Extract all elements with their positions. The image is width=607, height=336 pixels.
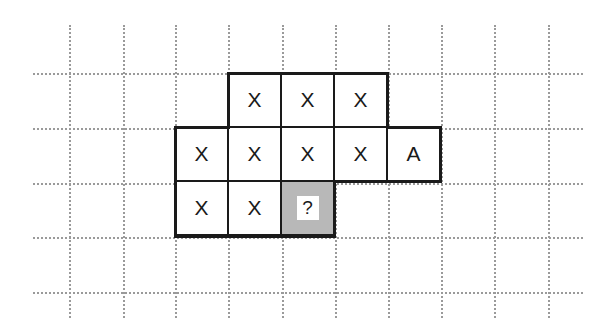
grid-line-vertical bbox=[123, 25, 125, 318]
grid-line-vertical bbox=[548, 25, 550, 318]
cell-r2c1: X bbox=[228, 181, 281, 235]
grid-line-vertical bbox=[494, 25, 496, 318]
cell-r1c2: X bbox=[281, 127, 334, 181]
outline-top-row1-left bbox=[175, 126, 230, 129]
cell-r1c1: X bbox=[228, 127, 281, 181]
grid-line-vertical bbox=[69, 25, 71, 318]
cell-label: X bbox=[300, 142, 314, 166]
cell-label: X bbox=[247, 88, 261, 112]
grid-line-horizontal bbox=[33, 292, 583, 294]
cell-label: X bbox=[247, 142, 261, 166]
cell-r1c3: X bbox=[334, 127, 387, 181]
outline-top-row1-right bbox=[386, 126, 441, 129]
cell-label: X bbox=[194, 196, 208, 220]
cell-label: A bbox=[406, 142, 420, 166]
cell-label: X bbox=[300, 88, 314, 112]
cell-r0c3: X bbox=[334, 73, 387, 127]
cell-r0c2: X bbox=[281, 73, 334, 127]
outline-right-row2 bbox=[333, 180, 336, 237]
cell-r0c1: X bbox=[228, 73, 281, 127]
outline-top-row0 bbox=[228, 72, 388, 75]
outline-bottom-row1-right bbox=[334, 180, 442, 183]
outline-bottom-row2 bbox=[174, 235, 336, 238]
outline-right-row0 bbox=[386, 72, 389, 129]
outline-left-rows12 bbox=[174, 126, 177, 237]
cell-label: X bbox=[353, 142, 367, 166]
cell-r1c4: A bbox=[387, 127, 440, 181]
unknown-cell: ? bbox=[281, 181, 334, 235]
cell-label: X bbox=[247, 196, 261, 220]
cell-label: X bbox=[353, 88, 367, 112]
cell-r1c0: X bbox=[175, 127, 228, 181]
question-mark-label: ? bbox=[297, 196, 319, 220]
outline-left-row0 bbox=[227, 72, 230, 129]
cell-label: X bbox=[194, 142, 208, 166]
cell-r2c0: X bbox=[175, 181, 228, 235]
outline-right-row1 bbox=[439, 126, 442, 183]
